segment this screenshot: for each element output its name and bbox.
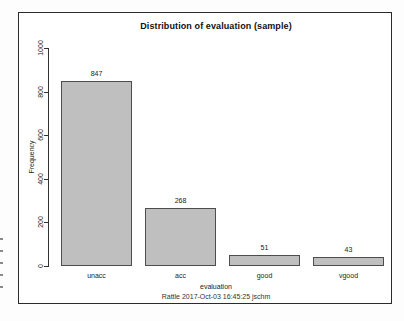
x-tick-label: unacc bbox=[61, 272, 132, 279]
y-tick-label: 400 bbox=[37, 173, 44, 185]
bar-acc bbox=[145, 208, 216, 266]
y-tick-label: 1000 bbox=[37, 40, 44, 56]
x-tick-label: acc bbox=[145, 272, 216, 279]
chart-caption: Rattle 2017-Oct-03 16:45:25 jschm bbox=[48, 293, 384, 300]
y-tick-mark bbox=[44, 222, 48, 223]
clipped-edge-text bbox=[0, 262, 3, 264]
y-tick-mark bbox=[44, 135, 48, 136]
y-axis-line bbox=[48, 48, 49, 267]
clipped-edge-text bbox=[0, 274, 3, 276]
chart-figure: Distribution of evaluation (sample) Freq… bbox=[18, 12, 392, 304]
y-tick-label: 800 bbox=[37, 86, 44, 98]
bar-value-label: 51 bbox=[229, 244, 300, 251]
chart-title: Distribution of evaluation (sample) bbox=[48, 21, 384, 31]
clipped-edge-text bbox=[0, 286, 3, 288]
x-tick-label: good bbox=[229, 272, 300, 279]
bar-value-label: 847 bbox=[61, 70, 132, 77]
y-tick-label: 600 bbox=[37, 129, 44, 141]
bar-unacc bbox=[61, 81, 132, 266]
y-axis-title-text: Frequency bbox=[28, 140, 35, 173]
bar-vgood bbox=[313, 257, 384, 266]
y-tick-mark bbox=[44, 179, 48, 180]
bar-good bbox=[229, 255, 300, 266]
y-tick-mark bbox=[44, 48, 48, 49]
y-tick-label: 0 bbox=[37, 264, 44, 268]
x-tick-label: vgood bbox=[313, 272, 384, 279]
screenshot-root: Distribution of evaluation (sample) Freq… bbox=[0, 0, 404, 321]
clipped-edge-text bbox=[0, 238, 3, 240]
clipped-edge-text bbox=[0, 250, 3, 252]
y-tick-mark bbox=[44, 92, 48, 93]
bar-value-label: 268 bbox=[145, 197, 216, 204]
x-axis-title: evaluation bbox=[48, 283, 384, 290]
y-tick-label: 200 bbox=[37, 217, 44, 229]
y-tick-mark bbox=[44, 266, 48, 267]
bar-value-label: 43 bbox=[313, 246, 384, 253]
